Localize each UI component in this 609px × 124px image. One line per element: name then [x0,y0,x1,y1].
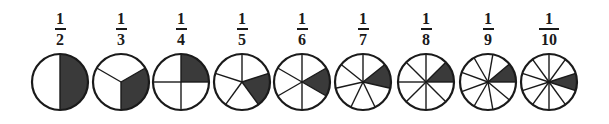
fraction-item-1-8: 1 8 [396,0,456,124]
numerator: 1 [458,10,518,27]
fraction-label: 1 6 [272,10,332,48]
fraction-label: 1 3 [91,10,151,48]
fraction-bar [483,28,494,30]
pie-circle-2-parts [30,52,90,112]
numerator: 1 [333,10,393,27]
fraction-item-1-3: 1 3 [91,0,151,124]
fraction-bar [237,28,248,30]
fraction-label: 1 8 [396,10,456,48]
numerator: 1 [212,10,272,27]
fraction-item-1-4: 1 4 [151,0,211,124]
pie-circle-3-parts [91,52,151,112]
shaded-sector [60,54,88,110]
denominator: 9 [458,31,518,48]
fraction-label: 1 9 [458,10,518,48]
pie-circle-7-parts [333,52,393,112]
pie-circle-5-parts [212,52,272,112]
pie-circle-6-parts [272,52,332,112]
fraction-bar [116,28,127,30]
numerator: 1 [519,10,579,27]
fraction-label: 1 5 [212,10,272,48]
fraction-item-1-10: 1 10 [519,0,579,124]
denominator: 3 [91,31,151,48]
pie-circle-10-parts [519,52,579,112]
fraction-item-1-2: 1 2 [30,0,90,124]
fraction-bar [55,28,66,30]
fraction-item-1-9: 1 9 [458,0,518,124]
fraction-bar [297,28,308,30]
pie-circle-8-parts [396,52,456,112]
numerator: 1 [30,10,90,27]
denominator: 5 [212,31,272,48]
denominator: 7 [333,31,393,48]
denominator: 10 [519,31,579,48]
fraction-bar [539,28,559,30]
denominator: 2 [30,31,90,48]
denominator: 6 [272,31,332,48]
pie-circle-9-parts [458,52,518,112]
denominator: 4 [151,31,211,48]
fraction-bar [358,28,369,30]
fraction-item-1-7: 1 7 [333,0,393,124]
numerator: 1 [396,10,456,27]
fraction-bar [176,28,187,30]
fraction-label: 1 10 [519,10,579,48]
fraction-item-1-5: 1 5 [212,0,272,124]
fraction-label: 1 2 [30,10,90,48]
numerator: 1 [272,10,332,27]
pie-circle-4-parts [151,52,211,112]
fraction-bar [421,28,432,30]
numerator: 1 [151,10,211,27]
fraction-label: 1 7 [333,10,393,48]
denominator: 8 [396,31,456,48]
numerator: 1 [91,10,151,27]
fraction-item-1-6: 1 6 [272,0,332,124]
fraction-label: 1 4 [151,10,211,48]
